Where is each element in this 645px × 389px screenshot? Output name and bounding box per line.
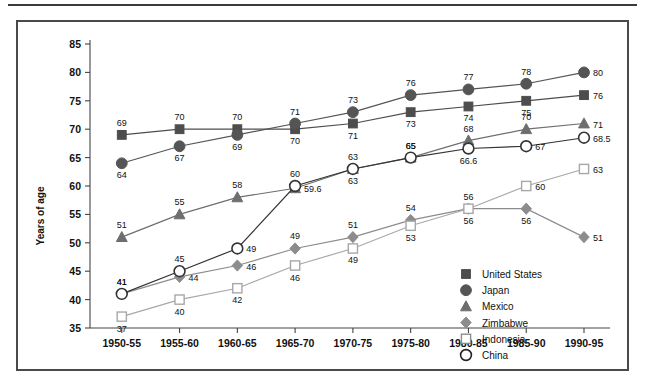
data-point-label: 63: [348, 176, 358, 186]
data-point-label: 49: [246, 244, 256, 254]
data-point-marker: [579, 164, 588, 173]
data-point-marker: [461, 350, 472, 361]
data-point-label: 53: [406, 233, 416, 243]
data-point-marker: [290, 118, 301, 129]
y-tick-label: 75: [69, 95, 81, 107]
data-point-marker: [174, 266, 185, 277]
legend-item-label: China: [482, 350, 509, 361]
y-tick-label: 45: [69, 265, 81, 277]
data-point-marker: [522, 96, 531, 105]
data-point-marker: [522, 181, 531, 190]
data-point-label: 67: [535, 142, 545, 152]
data-point-marker: [116, 289, 127, 300]
data-point-marker: [232, 129, 243, 140]
data-point-marker: [521, 141, 532, 152]
data-point-label: 70: [232, 112, 242, 122]
data-point-label: 51: [348, 220, 358, 230]
data-point-label: 69: [117, 118, 127, 128]
x-tick-label: 1970-75: [334, 337, 373, 349]
data-point-label: 73: [348, 95, 358, 105]
plot-area: 35404550556065707580851950-551955-601960…: [18, 22, 631, 373]
series-labels-china: 41454960636566.66768.5: [117, 134, 611, 287]
data-point-marker: [347, 107, 358, 118]
data-point-label: 68: [463, 124, 473, 134]
legend-item-label: Mexico: [482, 301, 514, 312]
data-point-label: 56: [463, 216, 473, 226]
data-point-marker: [175, 295, 184, 304]
y-axis-title: Years of age: [35, 186, 46, 245]
data-point-label: 41: [117, 277, 127, 287]
data-point-marker: [290, 181, 301, 192]
data-point-label: 71: [348, 131, 358, 141]
legend-item-label: United States: [482, 269, 542, 280]
legend-item-label: Japan: [482, 285, 509, 296]
data-point-marker: [232, 243, 243, 254]
data-point-label: 76: [593, 91, 603, 101]
data-point-label: 71: [593, 120, 603, 130]
data-point-marker: [117, 312, 126, 321]
y-tick-label: 70: [69, 123, 81, 135]
chart-page: 35404550556065707580851950-551955-601960…: [0, 0, 645, 389]
data-point-label: 69: [232, 142, 242, 152]
data-point-marker: [347, 164, 358, 175]
data-point-label: 66.6: [460, 156, 478, 166]
x-tick-label: 1960-65: [218, 337, 257, 349]
data-point-marker: [521, 78, 532, 89]
data-point-label: 59.6: [304, 184, 322, 194]
data-point-marker: [461, 334, 470, 343]
data-point-label: 49: [290, 231, 300, 241]
data-point-marker: [117, 130, 126, 139]
data-point-marker: [233, 284, 242, 293]
data-point-label: 40: [175, 307, 185, 317]
data-point-label: 78: [521, 67, 531, 77]
data-point-label: 70: [521, 112, 531, 122]
data-point-marker: [461, 317, 471, 328]
data-point-marker: [464, 204, 473, 213]
data-point-label: 42: [232, 295, 242, 305]
data-point-label: 65: [406, 141, 416, 151]
data-point-label: 76: [406, 78, 416, 88]
data-point-label: 54: [406, 203, 416, 213]
x-tick-label: 1950-55: [103, 337, 142, 349]
data-point-label: 70: [290, 136, 300, 146]
data-point-label: 73: [406, 119, 416, 129]
data-point-marker: [461, 285, 472, 296]
data-point-label: 68.5: [593, 134, 611, 144]
data-point-marker: [464, 102, 473, 111]
data-point-marker: [579, 132, 590, 143]
y-tick-label: 85: [69, 38, 81, 50]
data-point-marker: [579, 67, 590, 78]
legend-item-label: Zimbabwe: [482, 318, 529, 329]
y-tick-label: 55: [69, 208, 81, 220]
data-point-marker: [463, 143, 474, 154]
y-tick-label: 60: [69, 180, 81, 192]
data-point-label: 51: [117, 220, 127, 230]
data-point-marker: [291, 261, 300, 270]
data-point-label: 56: [521, 216, 531, 226]
data-point-label: 51: [593, 233, 603, 243]
x-tick-label: 1955-60: [160, 337, 199, 349]
data-point-label: 71: [290, 107, 300, 117]
data-point-label: 70: [175, 112, 185, 122]
data-point-marker: [348, 244, 357, 253]
data-point-label: 60: [535, 182, 545, 192]
data-point-label: 67: [175, 153, 185, 163]
data-point-marker: [232, 260, 242, 271]
data-point-marker: [521, 203, 531, 214]
data-point-marker: [461, 301, 472, 311]
data-point-marker: [175, 125, 184, 134]
data-point-marker: [116, 232, 127, 242]
data-point-label: 56: [463, 192, 473, 202]
data-point-label: 55: [175, 197, 185, 207]
chart-frame: 35404550556065707580851950-551955-601960…: [16, 20, 629, 371]
data-point-marker: [579, 232, 589, 243]
data-point-label: 80: [593, 68, 603, 78]
data-point-marker: [405, 152, 416, 163]
data-point-label: 37: [117, 324, 127, 334]
legend-item-label: Indonesia: [482, 334, 526, 345]
data-point-label: 46: [290, 273, 300, 283]
data-point-marker: [405, 90, 416, 101]
data-point-marker: [462, 270, 471, 279]
data-point-marker: [406, 108, 415, 117]
data-point-label: 46: [246, 262, 256, 272]
